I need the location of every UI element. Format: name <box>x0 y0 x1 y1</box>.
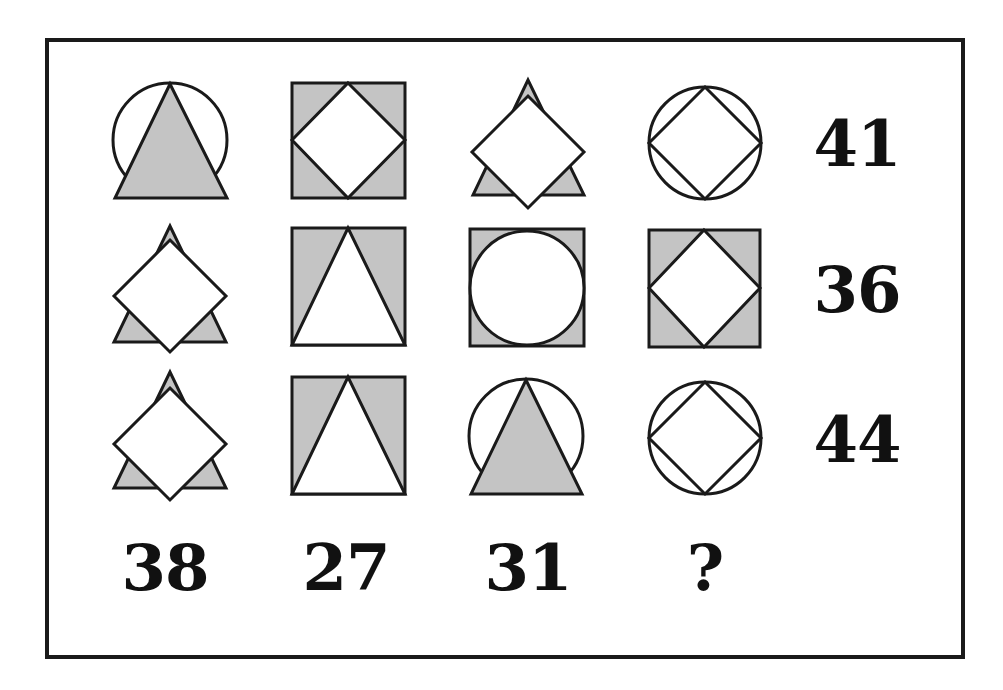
row-sum-1: 41 <box>787 112 927 176</box>
cell-r3-c4-circle-with-diamond <box>649 382 761 494</box>
cell-r1-c3-triangle-with-diamond <box>472 80 584 208</box>
row-sum-3: 44 <box>787 408 927 472</box>
cell-r3-c3-circle-with-triangle <box>469 379 583 494</box>
column-sum-2: 27 <box>276 536 416 600</box>
column-sum-1: 38 <box>95 536 235 600</box>
cell-r2-c2-square-with-triangle <box>292 228 405 345</box>
cell-r3-c2-square-with-triangle <box>292 377 405 494</box>
cell-r3-c1-triangle-with-diamond <box>114 372 226 500</box>
cell-r2-c1-triangle-with-diamond <box>114 226 226 352</box>
cell-r2-c3-square-with-circle <box>470 229 584 346</box>
column-sum-3: 31 <box>458 536 598 600</box>
column-sum-unknown: ? <box>635 536 775 600</box>
row-sum-2: 36 <box>787 258 927 322</box>
cell-r1-c4-circle-with-diamond <box>649 87 761 199</box>
cell-r1-c1-circle-with-triangle <box>113 83 227 198</box>
cell-r2-c4-square-with-diamond <box>649 230 760 347</box>
cell-r1-c2-square-with-diamond <box>292 83 405 198</box>
